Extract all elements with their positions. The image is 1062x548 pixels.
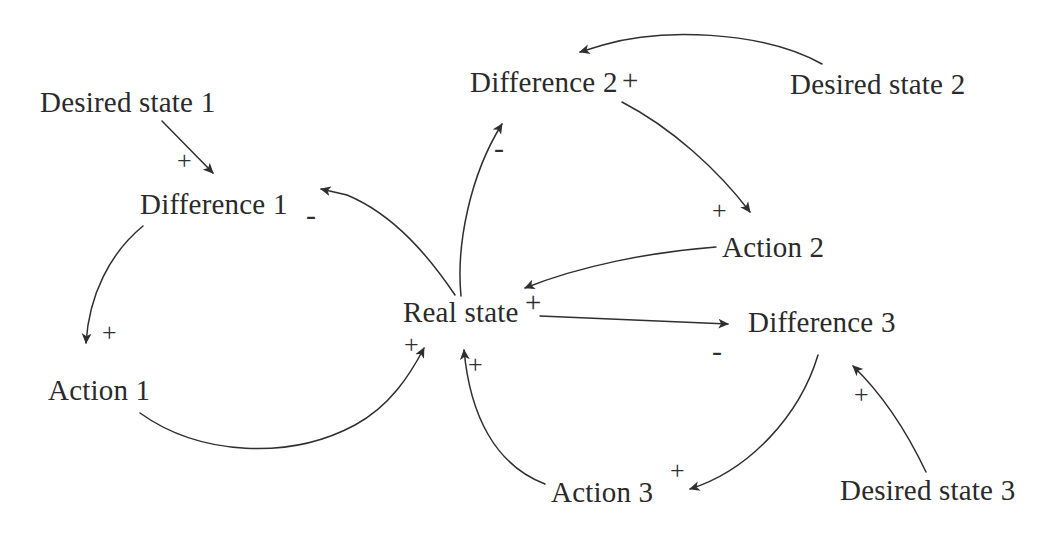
polarity-sign-realstate-difference2: - — [494, 133, 504, 163]
polarity-sign-action1-realstate: + — [404, 332, 419, 358]
node-difference-3[interactable]: Difference 3 — [748, 308, 896, 337]
edge-difference-3-to-action-3 — [690, 355, 818, 489]
polarity-sign-action3-realstate: + — [468, 352, 483, 378]
edge-desired-state-2-to-difference-2 — [580, 35, 822, 64]
polarity-sign-difference2-action2: + — [712, 198, 727, 224]
node-difference-2[interactable]: Difference 2 — [470, 68, 618, 97]
edge-real-state-to-difference-1 — [321, 189, 455, 295]
polarity-sign-desired3-difference3: + — [854, 382, 869, 408]
polarity-sign-desired2-difference2: + — [622, 66, 638, 95]
node-desired-state-2[interactable]: Desired state 2 — [790, 70, 965, 99]
edge-action-2-to-real-state — [525, 247, 716, 288]
polarity-sign-realstate-difference1: - — [306, 200, 316, 230]
node-desired-state-3[interactable]: Desired state 3 — [840, 476, 1015, 505]
node-action-2[interactable]: Action 2 — [722, 233, 824, 262]
polarity-sign-difference1-action1: + — [102, 320, 117, 346]
node-difference-1[interactable]: Difference 1 — [140, 190, 288, 219]
node-real-state[interactable]: Real state — [403, 298, 519, 327]
edge-difference-2-to-action-2 — [622, 102, 750, 212]
edge-action-1-to-real-state — [140, 348, 424, 449]
polarity-sign-realstate-difference3: - — [712, 336, 722, 366]
node-desired-state-1[interactable]: Desired state 1 — [40, 88, 215, 117]
polarity-sign-desired1-difference1: + — [177, 148, 192, 174]
node-action-3[interactable]: Action 3 — [551, 478, 653, 507]
polarity-sign-difference3-action3: + — [670, 458, 685, 484]
edge-real-state-to-difference-3 — [540, 316, 728, 324]
node-action-1[interactable]: Action 1 — [48, 376, 150, 405]
causal-loop-diagram: Desired state 1 Difference 1 Action 1 Di… — [0, 0, 1062, 548]
polarity-sign-realstate-output: + — [525, 288, 541, 317]
